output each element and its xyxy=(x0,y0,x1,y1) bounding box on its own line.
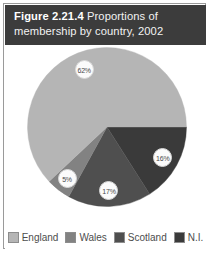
chart-legend: EnglandWalesScotlandN.I. xyxy=(5,225,206,249)
legend-swatch-icon xyxy=(114,232,125,243)
chart-plot-area: 16%17%5%62% xyxy=(5,45,206,225)
legend-item-scotland[interactable]: Scotland xyxy=(114,232,167,243)
figure-caption-band: Figure 2.21.4 Proportions of membership … xyxy=(5,5,206,45)
legend-swatch-icon xyxy=(65,232,76,243)
legend-swatch-icon xyxy=(174,232,185,243)
legend-label: N.I. xyxy=(188,232,204,243)
legend-item-wales[interactable]: Wales xyxy=(65,232,106,243)
legend-item-england[interactable]: England xyxy=(8,232,59,243)
figure-caption: Figure 2.21.4 Proportions of membership … xyxy=(14,9,198,39)
pie-chart: 16%17%5%62% xyxy=(27,47,187,207)
figure-frame: Figure 2.21.4 Proportions of membership … xyxy=(3,3,206,249)
pie-label-wales: 5% xyxy=(58,169,77,188)
legend-label: Scotland xyxy=(128,232,167,243)
legend-item-ni[interactable]: N.I. xyxy=(174,232,204,243)
legend-label: England xyxy=(22,232,59,243)
legend-swatch-icon xyxy=(8,232,19,243)
figure-number: Figure 2.21.4 xyxy=(14,10,84,22)
legend-label: Wales xyxy=(79,232,106,243)
pie-label-england: 62% xyxy=(75,60,94,79)
